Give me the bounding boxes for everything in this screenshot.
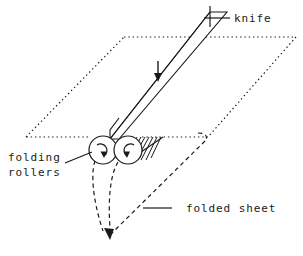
folded-sheet-inner-leg — [109, 162, 118, 228]
roller-left[interactable] — [89, 136, 117, 164]
knife-blade — [110, 12, 227, 139]
knife-blade-face — [110, 12, 227, 139]
folded-sheet-left-leg — [93, 161, 103, 231]
sheet-edge-right — [208, 37, 296, 137]
folding-rollers-leader — [65, 152, 92, 163]
label-folding-rollers-line1: folding — [8, 151, 61, 164]
folding-rollers[interactable] — [89, 136, 142, 164]
folding-rollers-leader-line — [65, 152, 92, 163]
folded-sheet-arrowhead — [104, 228, 114, 240]
sheet-edge-left — [26, 37, 124, 137]
label-folding-rollers-line2: rollers — [8, 166, 61, 179]
diagram-canvas: knife folding rollers folded sheet — [0, 0, 303, 256]
knife-folder-diagram: knife folding rollers folded sheet — [0, 0, 303, 256]
label-knife: knife — [234, 12, 272, 25]
label-folded-sheet: folded sheet — [186, 202, 276, 215]
roller-right[interactable] — [114, 136, 142, 164]
